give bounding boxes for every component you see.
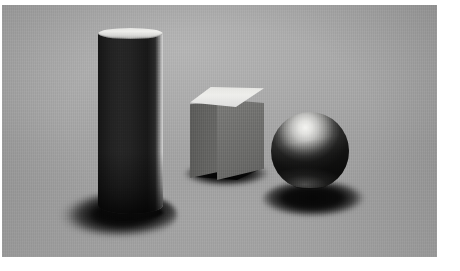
photo-plate [2,5,437,257]
image-canvas [0,0,460,271]
cylinder-top-cap [98,28,163,39]
cylinder-body-shading [98,152,163,214]
sphere-bounce-light [277,159,343,189]
cube-face-right [217,99,264,180]
sphere-body [271,112,349,190]
cube-face-left [190,102,218,178]
cylinder-body [98,33,163,214]
